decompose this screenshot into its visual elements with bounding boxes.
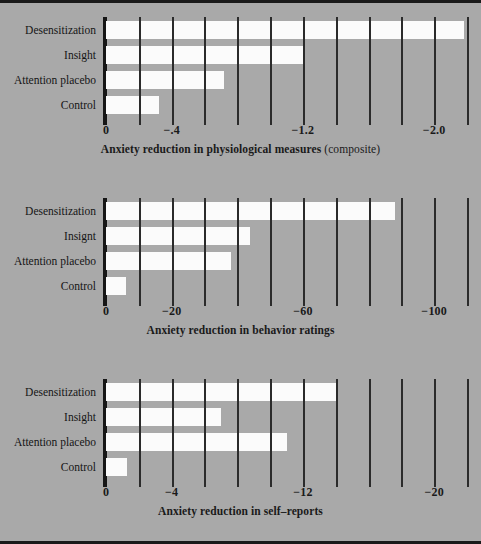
category-labels-1: DesensitizationInsightAttention placeboC… — [0, 21, 102, 121]
gridline — [401, 198, 403, 306]
gridline — [139, 17, 141, 125]
x-tick-label: −12 — [293, 485, 312, 500]
chart-caption-3: Anxiety reduction in self–reports — [0, 505, 481, 517]
bar-row — [106, 458, 467, 476]
category-label: Control — [61, 277, 96, 295]
gridline — [434, 198, 436, 306]
x-tick-label: −20 — [162, 304, 181, 319]
gridline — [204, 379, 206, 487]
x-tick-label: −60 — [293, 304, 312, 319]
chart-caption-2: Anxiety reduction in behavior ratings — [0, 324, 481, 336]
x-tick-labels-1: 0−.4−1.2−2.0 — [106, 123, 467, 141]
chart-caption-1: Anxiety reduction in physiological measu… — [0, 143, 481, 155]
x-tick-labels-2: 0−20−60−100 — [106, 304, 467, 322]
category-label: Desensitization — [25, 202, 96, 220]
gridline — [369, 379, 371, 487]
chart-panel-physiological: DesensitizationInsightAttention placeboC… — [0, 3, 481, 183]
plot-area-2 — [106, 202, 467, 302]
x-tick-label: −.4 — [163, 123, 179, 138]
bars-group-1 — [106, 21, 467, 121]
category-label: Control — [61, 458, 96, 476]
figure-root: DesensitizationInsightAttention placeboC… — [0, 0, 481, 544]
x-tick-label: −100 — [421, 304, 447, 319]
gridline — [237, 198, 239, 306]
x-tick-label: −20 — [424, 485, 443, 500]
x-tick-label: −4 — [165, 485, 178, 500]
gridline — [139, 379, 141, 487]
gridline — [270, 198, 272, 306]
category-label: Insight — [64, 46, 96, 64]
gridline — [204, 198, 206, 306]
plot-area-3 — [106, 383, 467, 483]
gridline — [303, 379, 305, 487]
caption-soft: (composite) — [321, 143, 380, 155]
category-label: Desensitization — [25, 383, 96, 401]
category-label: Insignt — [64, 227, 96, 245]
bar-row — [106, 277, 467, 295]
bar — [106, 433, 287, 451]
gridline — [237, 379, 239, 487]
category-label: Desensitization — [25, 21, 96, 39]
category-label: Attention placebo — [14, 252, 96, 270]
x-tick-labels-3: 0−4−12−20 — [106, 485, 467, 503]
bar — [106, 96, 159, 114]
bar-row — [106, 433, 467, 451]
caption-main: Anxiety reduction in self–reports — [158, 505, 323, 517]
gridline — [336, 379, 338, 487]
chart-panel-behavior: DesensitizationInsigntAttention placeboC… — [0, 184, 481, 364]
bar — [106, 227, 250, 245]
gridline — [434, 17, 436, 125]
category-label: Attention placebo — [14, 433, 96, 451]
caption-main: Anxiety reduction in physiological measu… — [101, 143, 321, 155]
category-labels-3: DesensitizationInsightAttention placeboC… — [0, 383, 102, 483]
category-label: Insight — [64, 408, 96, 426]
gridline — [172, 198, 174, 306]
x-tick-label: 0 — [103, 304, 109, 319]
plot-area-1 — [106, 21, 467, 121]
bar-row — [106, 21, 467, 39]
bar-row — [106, 46, 467, 64]
gridline — [369, 17, 371, 125]
gridline — [467, 17, 469, 125]
chart-panel-self-reports: DesensitizationInsightAttention placeboC… — [0, 365, 481, 544]
gridline — [303, 17, 305, 125]
gridline — [401, 17, 403, 125]
gridline — [270, 379, 272, 487]
caption-main: Anxiety reduction in behavior ratings — [147, 324, 335, 336]
gridline — [401, 379, 403, 487]
gridline — [369, 198, 371, 306]
x-tick-label: 0 — [103, 123, 109, 138]
bar — [106, 458, 127, 476]
gridline — [336, 17, 338, 125]
bar — [106, 21, 464, 39]
gridline — [172, 379, 174, 487]
bar-row — [106, 71, 467, 89]
gridline — [336, 198, 338, 306]
bar-row — [106, 383, 467, 401]
x-tick-label: 0 — [103, 485, 109, 500]
category-label: Attention placebo — [14, 71, 96, 89]
gridline — [139, 198, 141, 306]
gridline — [434, 379, 436, 487]
gridline — [172, 17, 174, 125]
bar-row — [106, 202, 467, 220]
bar-row — [106, 252, 467, 270]
gridline — [467, 198, 469, 306]
bar-row — [106, 408, 467, 426]
bars-group-3 — [106, 383, 467, 483]
x-tick-label: −2.0 — [423, 123, 446, 138]
category-labels-2: DesensitizationInsigntAttention placeboC… — [0, 202, 102, 302]
gridline — [467, 379, 469, 487]
bar — [106, 277, 126, 295]
panels-container: DesensitizationInsightAttention placeboC… — [0, 3, 481, 544]
gridline — [204, 17, 206, 125]
gridline — [270, 17, 272, 125]
bar-row — [106, 227, 467, 245]
gridline — [237, 17, 239, 125]
category-label: Control — [61, 96, 96, 114]
x-tick-label: −1.2 — [292, 123, 315, 138]
gridline — [303, 198, 305, 306]
bar — [106, 202, 395, 220]
bars-group-2 — [106, 202, 467, 302]
bar — [106, 252, 231, 270]
